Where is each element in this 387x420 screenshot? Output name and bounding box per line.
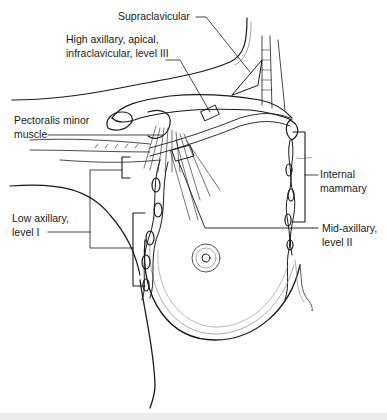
bottom-border-band xyxy=(0,413,387,420)
label-internal-mammary-line1: Internal xyxy=(320,168,355,181)
label-high-axillary-line1: High axillary, apical, xyxy=(66,33,159,46)
label-pectoralis-line2: muscle xyxy=(14,128,47,141)
label-internal-mammary-line2: mammary xyxy=(320,182,367,195)
label-high-axillary-line2: infraclavicular, level III xyxy=(66,47,169,60)
label-mid-axillary-line1: Mid-axillary, xyxy=(322,222,377,235)
anatomy-illustration xyxy=(0,0,387,420)
label-supraclavicular: Supraclavicular xyxy=(118,10,190,23)
label-low-axillary-line2: level I xyxy=(12,226,39,239)
label-low-axillary-line1: Low axillary, xyxy=(12,212,69,225)
label-pectoralis-line1: Pectoralis minor xyxy=(14,114,89,127)
lymph-node-diagram: Supraclavicular High axillary, apical, i… xyxy=(0,0,387,420)
label-mid-axillary-line2: level II xyxy=(322,236,352,249)
